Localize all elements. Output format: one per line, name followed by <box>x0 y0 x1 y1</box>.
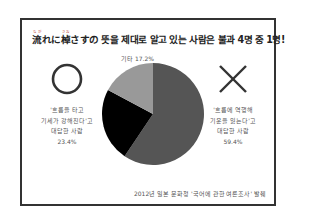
title-kanji-2: 棹 <box>61 34 71 45</box>
circle-o-icon <box>50 62 84 96</box>
right-label-percent: 59.4% <box>194 137 272 148</box>
left-label-line3: 대답한 사람 <box>28 126 106 137</box>
title-ruby-1: 流なが <box>32 34 42 45</box>
chart-title: 流ながれに棹さおさすの 뜻을 제대로 알고 있는 사람은 불과 4명 중 1명! <box>32 30 285 46</box>
left-label-line2: 기세가 강해진다'고 <box>28 116 106 127</box>
title-kanji-1: 流 <box>32 34 42 45</box>
right-answer-group: '흐름에 역행해 기운을 잃는다'고 대답한 사람 59.4% <box>194 62 272 147</box>
title-furigana-2: さお <box>61 30 71 34</box>
left-label-line1: '흐름을 타고 <box>28 105 106 116</box>
pie-chart <box>101 62 205 166</box>
cross-x-icon <box>216 62 250 96</box>
source-note: 2012년 일본 문화청 '국어에 관한 여론조사' 발췌 <box>134 189 266 198</box>
title-furigana-1: なが <box>32 30 42 34</box>
title-ruby-2: 棹さお <box>61 34 71 45</box>
right-label-line2: 기운을 잃는다'고 <box>194 116 272 127</box>
title-rest: さすの 뜻을 제대로 알고 있는 사람은 불과 4명 중 1명! <box>70 34 285 45</box>
left-answer-group: '흐름을 타고 기세가 강해진다'고 대답한 사람 23.4% <box>28 62 106 147</box>
left-label-percent: 23.4% <box>28 137 106 148</box>
title-kana: れに <box>42 34 61 45</box>
chart-frame: 流ながれに棹さおさすの 뜻을 제대로 알고 있는 사람은 불과 4명 중 1명!… <box>20 18 276 206</box>
right-label-line1: '흐름에 역행해 <box>194 105 272 116</box>
right-label-line3: 대답한 사람 <box>194 126 272 137</box>
